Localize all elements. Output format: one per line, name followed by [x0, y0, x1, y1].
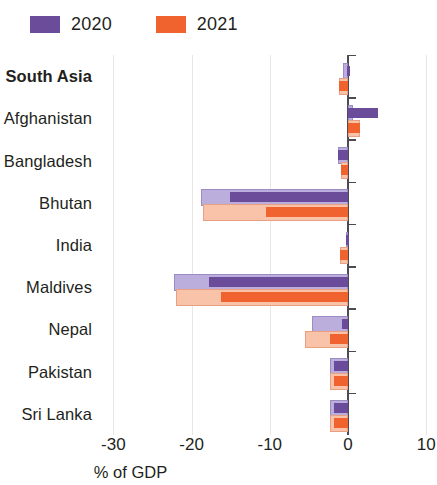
bar-2021-south-asia — [339, 81, 348, 91]
y-axis-tick — [349, 266, 356, 267]
x-tick-label-neg10: -10 — [258, 435, 283, 455]
category-label-india: India — [56, 236, 92, 255]
bar-2021-pakistan — [334, 376, 348, 386]
category-label-maldives: Maldives — [26, 278, 92, 297]
bar-2021-afghanistan — [348, 123, 360, 133]
category-label-pakistan: Pakistan — [28, 362, 92, 381]
category-label-sri-lanka: Sri Lanka — [21, 404, 92, 423]
y-axis-tick — [349, 97, 356, 98]
bar-2020-south-asia — [347, 66, 350, 76]
gridline — [113, 55, 114, 435]
x-axis: % of GDP -30-20-10010 — [0, 435, 437, 485]
y-axis-tick — [349, 308, 356, 309]
x-axis-title: % of GDP — [0, 463, 437, 482]
plot-inner: South AsiaAfghanistanBangladeshBhutanInd… — [0, 55, 437, 435]
bar-2020-pakistan — [334, 361, 348, 371]
x-tick-label-10: 10 — [417, 435, 436, 455]
bar-2021-bangladesh — [341, 165, 348, 175]
x-tick-label-neg20: -20 — [179, 435, 204, 455]
category-label-bangladesh: Bangladesh — [4, 151, 92, 170]
y-axis-tick — [349, 55, 356, 56]
category-label-afghanistan: Afghanistan — [4, 109, 92, 128]
legend-label-2020: 2020 — [71, 14, 112, 35]
bar-2020-bhutan — [230, 192, 348, 202]
bar-2020-nepal — [342, 319, 348, 329]
category-label-south-asia: South Asia — [5, 67, 92, 86]
gridline — [192, 55, 193, 435]
y-axis-tick — [349, 139, 356, 140]
bar-2020-maldives — [209, 277, 348, 287]
y-axis-tick — [349, 393, 356, 394]
legend-item-2020: 2020 — [30, 14, 112, 35]
legend-swatch-2020 — [30, 16, 60, 33]
gridline — [426, 55, 427, 435]
y-axis-tick — [349, 182, 356, 183]
bar-2021-bhutan — [266, 207, 348, 217]
plot-area: South AsiaAfghanistanBangladeshBhutanInd… — [0, 55, 437, 435]
x-tick-label-neg30: -30 — [101, 435, 126, 455]
gridline — [270, 55, 271, 435]
bar-2020-afghanistan — [348, 108, 378, 118]
legend-label-2021: 2021 — [197, 14, 238, 35]
bar-2021-nepal — [330, 334, 348, 344]
category-label-bhutan: Bhutan — [39, 193, 92, 212]
bar-2021-india — [340, 250, 348, 260]
bar-2021-sri-lanka — [334, 418, 348, 428]
chart-legend: 2020 2021 — [30, 14, 282, 35]
y-axis-tick — [349, 351, 356, 352]
x-tick-label-0: 0 — [343, 435, 352, 455]
category-label-nepal: Nepal — [48, 320, 92, 339]
bar-chart: 2020 2021 South AsiaAfghanistanBanglades… — [0, 0, 437, 485]
bar-2020-india — [346, 235, 349, 245]
bar-2020-sri-lanka — [334, 403, 348, 413]
y-axis-tick — [349, 224, 356, 225]
bar-2020-bangladesh — [338, 150, 348, 160]
bar-2021-maldives — [221, 292, 348, 302]
legend-swatch-2021 — [156, 16, 186, 33]
legend-item-2021: 2021 — [156, 14, 238, 35]
